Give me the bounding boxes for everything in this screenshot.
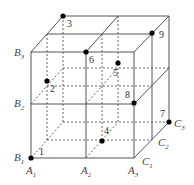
front-face <box>31 52 134 158</box>
label-b3: B3 <box>14 46 25 61</box>
label-c1: C1 <box>142 155 153 170</box>
label-c2: C2 <box>158 136 169 151</box>
point-3 <box>60 13 65 18</box>
point-4-label: 4 <box>104 125 109 136</box>
label-c3: C3 <box>174 117 185 132</box>
point-5 <box>115 60 120 65</box>
label-b2: B2 <box>14 97 25 112</box>
point-2 <box>44 78 49 83</box>
point-8 <box>131 100 136 105</box>
label-b1: B1 <box>14 151 24 166</box>
point-3-label: 3 <box>67 18 72 29</box>
label-a1: A1 <box>25 164 36 179</box>
cube-diagram: 1 2 3 4 5 6 7 8 9 B3 B2 B1 A1 A2 A3 C1 C… <box>0 0 194 185</box>
point-7-label: 7 <box>160 108 165 119</box>
a-axis-labels: A1 A2 A3 <box>25 164 139 179</box>
point-6-label: 6 <box>89 54 94 65</box>
b-axis-labels: B3 B2 B1 <box>14 46 25 166</box>
point-4 <box>99 138 104 143</box>
point-7 <box>166 119 171 124</box>
point-1-label: 1 <box>39 146 44 157</box>
point-8-label: 8 <box>125 89 130 100</box>
point-6 <box>83 49 88 54</box>
point-1 <box>28 155 33 160</box>
top-face <box>31 16 169 52</box>
label-a3: A3 <box>127 164 139 179</box>
label-a2: A2 <box>80 164 92 179</box>
point-5-label: 5 <box>113 67 118 78</box>
point-2-label: 2 <box>50 83 55 94</box>
point-9 <box>149 30 154 35</box>
point-9-label: 9 <box>159 29 164 40</box>
